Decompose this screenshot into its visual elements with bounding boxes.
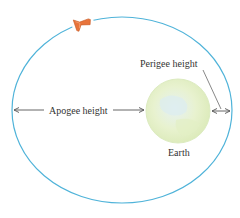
apogee-label: Apogee height	[49, 105, 108, 116]
perigee-label: Perigee height	[140, 58, 198, 69]
earth-icon	[146, 79, 210, 143]
orbit-diagram: Apogee height Perigee height Earth	[0, 0, 240, 218]
apogee-dimension: Apogee height	[14, 105, 144, 116]
earth-label: Earth	[168, 147, 190, 158]
